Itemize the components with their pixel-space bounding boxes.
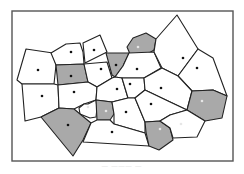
site-point-icon [137,46,140,49]
figure-caption: — ——— — [0,163,244,169]
site-point-icon [180,123,183,126]
site-point-icon [37,69,40,72]
site-point-icon [196,67,199,70]
site-point-icon [150,103,153,106]
site-point-icon [41,95,44,98]
voronoi-cell-shaded [56,64,88,85]
site-point-icon [87,106,90,109]
site-point-icon [129,83,132,86]
site-point-icon [182,57,185,60]
site-point-icon [201,100,204,103]
site-point-icon [70,75,73,78]
site-point-icon [100,68,103,71]
site-point-icon [105,110,108,113]
site-point-icon [73,91,76,94]
site-point-icon [116,88,119,91]
site-point-icon [111,131,114,134]
site-point-icon [125,111,128,114]
site-point-icon [67,124,70,127]
voronoi-diagram [0,0,244,174]
site-point-icon [136,68,139,71]
site-point-icon [115,64,118,67]
site-point-icon [70,51,73,54]
site-point-icon [93,49,96,52]
voronoi-cell-shaded [96,100,114,120]
site-point-icon [159,128,162,131]
site-point-icon [160,87,163,90]
